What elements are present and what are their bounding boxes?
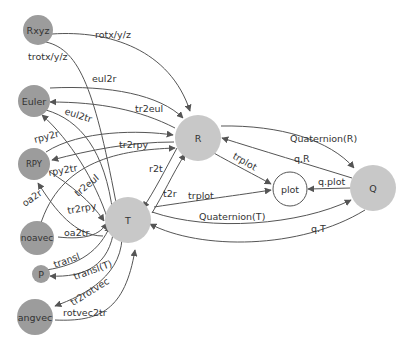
node-angvec[interactable]: angvec bbox=[17, 299, 53, 335]
edge-tr2rpy-R bbox=[52, 142, 174, 160]
edge-label-eul2r: eul2r bbox=[92, 73, 117, 84]
edge-label-r2t: r2t bbox=[149, 163, 163, 174]
edge-label-qT: q.T bbox=[311, 223, 326, 234]
edge-eul2tr bbox=[46, 110, 113, 214]
edge-label-oa2r: oa2r bbox=[20, 187, 44, 208]
edge-label-qplot: q.plot bbox=[318, 176, 346, 187]
edge-label-trotxyz: trotx/y/z bbox=[28, 51, 68, 62]
node-label-plot: plot bbox=[281, 184, 299, 195]
edge-label-tr2rpy-R: tr2rpy bbox=[119, 139, 149, 150]
edge-label-transl: transl bbox=[52, 250, 81, 270]
node-rxyz[interactable]: Rxyz bbox=[23, 15, 53, 45]
node-label-euler: Euler bbox=[22, 96, 47, 107]
edge-label-eul2tr: eul2tr bbox=[63, 105, 93, 124]
node-q[interactable]: Q bbox=[350, 165, 396, 211]
node-p[interactable]: P bbox=[32, 265, 50, 283]
edge-label-rotvec2tr: rotvec2tr bbox=[63, 307, 107, 318]
node-label-noavec: noavec bbox=[21, 233, 54, 243]
node-label-t: T bbox=[124, 215, 131, 226]
edges: rotx/y/z trotx/y/z eul2r tr2eul eul2tr t… bbox=[20, 29, 365, 320]
edge-label-trplot-T: trplot bbox=[188, 190, 214, 201]
edge-qplot bbox=[308, 188, 351, 189]
conversion-diagram: rotx/y/z trotx/y/z eul2r tr2eul eul2tr t… bbox=[0, 0, 406, 344]
node-label-p: P bbox=[38, 269, 44, 280]
edge-label-rotxyz: rotx/y/z bbox=[95, 29, 131, 40]
edge-label-oa2tr: oa2tr bbox=[64, 227, 89, 238]
edge-label-quaternion-R: Quaternion(R) bbox=[290, 133, 357, 144]
node-label-r: R bbox=[195, 133, 202, 144]
edge-rotxyz bbox=[52, 34, 190, 111]
node-label-rpy: RPY bbox=[26, 159, 43, 169]
edge-label-tr2eul-R: tr2eul bbox=[135, 103, 163, 114]
edge-label-tr2rpy-T: tr2rpy bbox=[66, 200, 97, 216]
node-rpy[interactable]: RPY bbox=[18, 148, 50, 180]
edge-label-tr2eul-T: tr2eul bbox=[72, 172, 101, 199]
node-label-rxyz: Rxyz bbox=[27, 25, 50, 36]
node-label-q: Q bbox=[369, 183, 376, 194]
node-plot[interactable]: plot bbox=[273, 172, 307, 206]
edge-label-quaternion-T: Quaternion(T) bbox=[199, 211, 265, 222]
node-r[interactable]: R bbox=[175, 115, 221, 161]
edge-label-rpy2r: rpy2r bbox=[33, 128, 61, 145]
node-euler[interactable]: Euler bbox=[18, 85, 50, 117]
node-label-angvec: angvec bbox=[18, 312, 53, 323]
edge-label-qR: q.R bbox=[294, 153, 310, 164]
edge-label-trplot-R: trplot bbox=[231, 150, 259, 173]
edge-label-t2r: t2r bbox=[163, 188, 177, 199]
node-noavec[interactable]: noavec bbox=[20, 221, 54, 255]
node-t[interactable]: T bbox=[105, 197, 151, 243]
